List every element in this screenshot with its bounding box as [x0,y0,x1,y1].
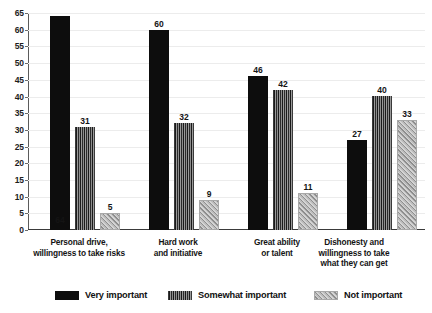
y-tick-label: 45 [2,76,24,85]
y-tick-mark [25,213,28,214]
y-axis-labels: 65 60 55 50 45 40 35 30 25 20 15 10 5 0 [0,13,24,230]
bar-g3-s1 [372,96,392,230]
y-tick-mark [25,97,28,98]
bar-value-g1-s0: 60 [149,20,169,29]
y-tick-label: 65 [2,9,24,18]
y-tick-mark [25,13,28,14]
bar-g2-s0 [248,76,268,230]
bar-value-g1-s2: 9 [199,190,219,199]
bar-g1-s2 [199,200,219,230]
bar-value-g3-s0: 27 [347,130,367,139]
y-tick-mark [25,80,28,81]
chart-legend: Very important Somewhat important Not im… [0,288,432,304]
y-tick-mark [25,46,28,47]
y-tick-label: 60 [2,26,24,35]
y-tick-label: 50 [2,59,24,68]
bar-g2-s2 [298,193,318,230]
gridline [28,30,425,31]
y-tick-mark [25,230,28,231]
gridline [28,46,425,47]
legend-item-very-important[interactable]: Very important [55,288,147,302]
legend-swatch-very-important-icon [55,291,79,300]
bar-g3-s0 [347,140,367,230]
bar-value-g0-s1: 31 [75,117,95,126]
bar-g0-s0 [50,16,70,230]
bar-chart: 65 60 55 50 45 40 35 30 25 20 15 10 5 0 [0,0,432,313]
y-tick-mark [25,30,28,31]
y-tick-label: 15 [2,176,24,185]
bar-value-g3-s1: 40 [372,86,392,95]
y-tick-label: 5 [2,209,24,218]
y-tick-label: 40 [2,93,24,102]
y-tick-label: 30 [2,126,24,135]
bar-value-g0-s2: 5 [100,203,120,212]
legend-swatch-not-important-icon [314,291,338,300]
y-tick-mark [25,113,28,114]
bar-g2-s1 [273,90,293,230]
legend-label-very-important: Very important [85,290,147,300]
y-tick-mark [25,147,28,148]
y-tick-label: 55 [2,42,24,51]
bar-g1-s0 [149,30,169,230]
bar-value-g2-s2: 11 [298,183,318,192]
y-tick-mark [25,197,28,198]
bar-value-g0-s0: 64 [50,216,70,225]
gridline [28,80,425,81]
legend-label-not-important: Not important [344,290,402,300]
bar-value-g1-s1: 32 [174,113,194,122]
bar-g0-s1 [75,127,95,231]
legend-item-somewhat-important[interactable]: Somewhat important [168,288,286,302]
gridline [28,97,425,98]
y-tick-label: 35 [2,109,24,118]
gridline [28,63,425,64]
y-tick-label: 20 [2,159,24,168]
bar-g1-s1 [174,123,194,230]
plot-area: 64 31 5 60 32 9 46 42 11 27 40 33 [28,13,425,230]
y-tick-mark [25,63,28,64]
bar-g3-s2 [397,120,417,230]
bar-value-g2-s0: 46 [248,66,268,75]
y-tick-mark [25,130,28,131]
category-label-3-line-0: Dishonesty and [293,237,415,248]
y-tick-label: 25 [2,143,24,152]
gridline [28,13,425,14]
gridline [28,113,425,114]
y-tick-label: 0 [2,226,24,235]
bar-g0-s2 [100,213,120,230]
category-label-3: Dishonesty and willingness to take what … [293,237,415,269]
bar-value-g2-s1: 42 [273,80,293,89]
y-tick-mark [25,180,28,181]
bar-value-g3-s2: 33 [397,110,417,119]
category-label-3-line-1: willingness to take [293,248,415,259]
y-tick-mark [25,163,28,164]
y-tick-label: 10 [2,193,24,202]
legend-swatch-somewhat-important-icon [168,291,192,300]
legend-item-not-important[interactable]: Not important [314,288,402,302]
category-label-3-line-2: what they can get [293,258,415,269]
legend-label-somewhat-important: Somewhat important [198,290,286,300]
